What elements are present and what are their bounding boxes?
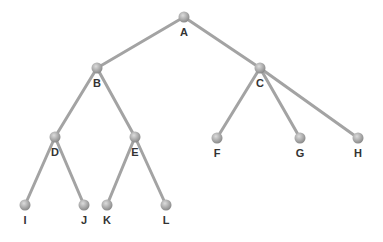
node-l: L [161, 200, 172, 227]
node-label: E [131, 146, 138, 158]
node-label: F [214, 147, 221, 159]
edge-b-e [97, 68, 135, 137]
tree-edges [25, 17, 358, 205]
node-i: I [20, 200, 31, 227]
node-label: I [23, 214, 26, 226]
node-circle-icon [50, 132, 61, 143]
node-circle-icon [255, 63, 266, 74]
node-k: K [102, 200, 113, 227]
node-a: A [179, 12, 190, 39]
node-h: H [353, 133, 364, 160]
node-label: G [296, 147, 305, 159]
node-circle-icon [161, 200, 172, 211]
node-circle-icon [92, 63, 103, 74]
node-label: C [256, 77, 264, 89]
edge-a-b [97, 17, 184, 68]
node-circle-icon [130, 132, 141, 143]
node-j: J [79, 200, 90, 227]
tree-diagram: ABCDEFGHIJKL [0, 0, 383, 242]
edge-d-j [55, 137, 84, 205]
node-label: J [81, 214, 87, 226]
edge-c-f [217, 68, 260, 138]
edge-b-d [55, 68, 97, 137]
node-circle-icon [295, 133, 306, 144]
edge-c-g [260, 68, 300, 138]
node-g: G [295, 133, 306, 160]
edge-e-l [135, 137, 166, 205]
node-label: L [163, 214, 170, 226]
tree-nodes: ABCDEFGHIJKL [20, 12, 364, 227]
edge-a-c [184, 17, 260, 68]
node-label: B [93, 77, 101, 89]
node-label: K [103, 214, 111, 226]
node-circle-icon [20, 200, 31, 211]
node-label: D [51, 146, 59, 158]
node-circle-icon [179, 12, 190, 23]
edge-c-h [260, 68, 358, 138]
node-f: F [212, 133, 223, 160]
node-circle-icon [353, 133, 364, 144]
node-circle-icon [102, 200, 113, 211]
node-label: H [354, 147, 362, 159]
node-circle-icon [212, 133, 223, 144]
node-circle-icon [79, 200, 90, 211]
node-label: A [180, 26, 188, 38]
